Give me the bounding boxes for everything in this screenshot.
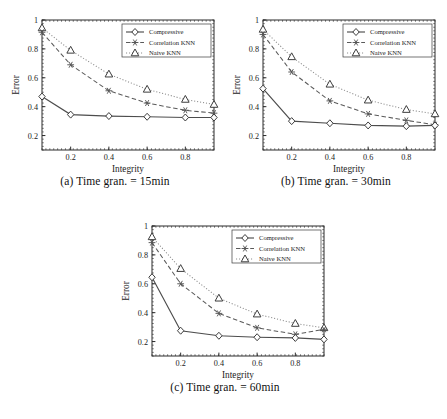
figure-panel-b: 0.20.40.60.80.20.40.60.81IntegrityErrorC… xyxy=(229,6,443,187)
y-axis-title: Error xyxy=(11,74,21,95)
chart-c: 0.20.40.60.80.20.40.60.81IntegrityErrorC… xyxy=(118,212,332,380)
x-tick-label: 0.2 xyxy=(66,153,76,162)
data-point xyxy=(365,122,371,129)
line-chart-b: 0.20.40.60.80.20.40.60.81IntegrityErrorC… xyxy=(229,6,443,174)
data-point xyxy=(326,80,334,87)
x-tick-label: 0.4 xyxy=(104,153,114,162)
data-point xyxy=(216,332,222,339)
chart-a: 0.20.40.60.80.20.40.60.81IntegrityErrorC… xyxy=(8,6,222,174)
legend-label: Naive KNN xyxy=(259,255,291,262)
y-axis-title: Error xyxy=(232,74,242,95)
data-point xyxy=(210,101,218,108)
data-point xyxy=(148,233,156,240)
x-tick-label: 0.6 xyxy=(363,153,373,162)
y-tick-label: 0.6 xyxy=(28,74,38,83)
x-tick-label: 0.8 xyxy=(401,153,411,162)
legend-label: Correlation KNN xyxy=(370,39,416,46)
caption-b: (b) Time gran. = 30min xyxy=(281,175,391,187)
y-tick-label: 0.8 xyxy=(28,45,38,54)
y-tick-label: 0.8 xyxy=(138,251,148,260)
data-point xyxy=(67,111,73,118)
y-tick-label: 0.4 xyxy=(138,309,148,318)
data-point xyxy=(431,110,439,117)
data-point xyxy=(215,294,223,301)
data-point xyxy=(288,53,296,60)
legend-label: Correlation KNN xyxy=(149,39,195,46)
y-tick-label: 0.6 xyxy=(138,280,148,289)
data-point xyxy=(39,93,45,100)
legend: CompressiveCorrelation KNNNaive KNN xyxy=(122,24,211,57)
data-point xyxy=(327,120,333,127)
x-tick-label: 0.2 xyxy=(176,359,186,368)
data-point xyxy=(403,123,409,130)
y-tick-label: 0.2 xyxy=(28,132,38,141)
y-tick-label: 0.8 xyxy=(249,45,259,54)
data-point xyxy=(177,265,185,272)
data-point xyxy=(321,336,327,343)
x-tick-label: 0.8 xyxy=(290,359,300,368)
y-tick-label: 0.4 xyxy=(28,103,38,112)
data-point xyxy=(292,320,300,327)
data-point xyxy=(403,106,411,113)
figure-panel-c: 0.20.40.60.80.20.40.60.81IntegrityErrorC… xyxy=(118,212,332,393)
data-point xyxy=(106,113,112,120)
y-tick-label: 1 xyxy=(144,222,148,231)
figure-panel-a: 0.20.40.60.80.20.40.60.81IntegrityErrorC… xyxy=(8,6,222,187)
y-tick-label: 0.6 xyxy=(249,74,259,83)
data-point xyxy=(144,113,150,120)
data-point xyxy=(143,85,151,92)
line-chart-c: 0.20.40.60.80.20.40.60.81IntegrityErrorC… xyxy=(118,212,332,380)
x-axis-title: Integrity xyxy=(222,370,254,380)
data-point xyxy=(177,327,183,334)
data-point xyxy=(254,334,260,341)
caption-a: (a) Time gran. = 15min xyxy=(60,175,169,187)
x-tick-label: 0.6 xyxy=(142,153,152,162)
data-point xyxy=(432,122,438,129)
legend: CompressiveCorrelation KNNNaive KNN xyxy=(232,230,321,263)
y-tick-label: 0.4 xyxy=(249,103,259,112)
x-tick-label: 0.4 xyxy=(325,153,335,162)
legend-label: Compressive xyxy=(259,234,294,241)
y-tick-label: 1 xyxy=(255,16,259,25)
y-tick-label: 0.2 xyxy=(249,132,259,141)
data-point xyxy=(292,334,298,341)
legend-label: Compressive xyxy=(149,28,184,35)
x-axis-title: Integrity xyxy=(112,164,144,174)
series-compressive xyxy=(149,274,327,343)
caption-c: (c) Time gran. = 60min xyxy=(170,381,279,393)
line-chart-a: 0.20.40.60.80.20.40.60.81IntegrityErrorC… xyxy=(8,6,222,174)
chart-b: 0.20.40.60.80.20.40.60.81IntegrityErrorC… xyxy=(229,6,443,174)
data-point xyxy=(182,114,188,121)
y-tick-label: 1 xyxy=(34,16,38,25)
x-axis-title: Integrity xyxy=(333,164,365,174)
legend-label: Correlation KNN xyxy=(259,245,305,252)
y-tick-label: 0.2 xyxy=(138,338,148,347)
data-point xyxy=(149,274,155,281)
data-point xyxy=(38,24,46,31)
x-tick-label: 0.2 xyxy=(287,153,297,162)
x-tick-label: 0.6 xyxy=(252,359,262,368)
x-tick-label: 0.8 xyxy=(180,153,190,162)
data-point xyxy=(259,25,267,32)
legend-label: Naive KNN xyxy=(370,49,402,56)
x-tick-label: 0.4 xyxy=(214,359,224,368)
y-axis-title: Error xyxy=(121,280,131,301)
legend-label: Compressive xyxy=(370,28,405,35)
data-point xyxy=(105,70,113,77)
legend: CompressiveCorrelation KNNNaive KNN xyxy=(343,24,432,57)
data-point xyxy=(211,114,217,121)
data-point xyxy=(67,46,75,53)
legend-label: Naive KNN xyxy=(149,49,181,56)
data-point xyxy=(364,96,372,103)
